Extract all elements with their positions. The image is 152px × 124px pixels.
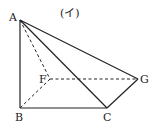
pyramid-diagram: (イ) A B C F G <box>0 0 152 124</box>
label-F: F <box>39 73 47 86</box>
label-G: G <box>140 73 149 86</box>
edge-AF <box>20 20 50 79</box>
label-B: B <box>15 111 23 124</box>
diagram-title: (イ) <box>60 7 80 20</box>
label-A: A <box>8 11 18 24</box>
label-C: C <box>103 111 111 124</box>
solid-edges <box>20 20 138 108</box>
edge-AG <box>20 20 138 79</box>
edge-CG <box>107 79 138 108</box>
